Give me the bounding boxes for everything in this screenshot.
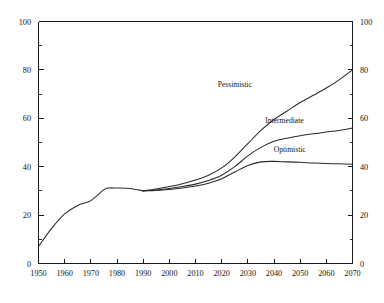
x-tick-label: 2070 <box>344 269 360 278</box>
x-tick-label: 1990 <box>135 269 151 278</box>
y-tick-label-right: 100 <box>360 18 372 27</box>
x-tick-label: 1960 <box>56 269 72 278</box>
x-tick-label: 1970 <box>83 269 99 278</box>
series-label-intermediate: Intermediate <box>265 116 304 125</box>
y-tick-label-left: 80 <box>23 66 31 75</box>
y-tick-label-left: 20 <box>23 211 31 220</box>
y-tick-label-right: 20 <box>360 211 368 220</box>
x-tick-label: 2040 <box>266 269 282 278</box>
x-tick-label: 1950 <box>30 269 46 278</box>
y-tick-label-left: 60 <box>23 114 31 123</box>
y-tick-label-right: 80 <box>360 66 368 75</box>
x-tick-label: 2050 <box>292 269 308 278</box>
y-tick-label-left: 40 <box>23 163 31 172</box>
chart-background <box>0 0 384 303</box>
series-label-pessimistic: Pessimistic <box>218 80 253 89</box>
y-tick-label-right: 40 <box>360 163 368 172</box>
x-tick-label: 1980 <box>109 269 125 278</box>
y-tick-label-right: 60 <box>360 114 368 123</box>
y-tick-label-left: 100 <box>19 18 31 27</box>
y-tick-label-left: 0 <box>27 260 31 269</box>
x-tick-label: 2020 <box>213 269 229 278</box>
series-label-optimistic: Optimistic <box>274 145 307 154</box>
population-projection-line-chart: 1950196019701980199020002010202020302040… <box>0 0 384 303</box>
y-tick-label-right: 0 <box>360 260 364 269</box>
x-tick-label: 2030 <box>240 269 256 278</box>
x-tick-label: 2010 <box>187 269 203 278</box>
chart-container: 1950196019701980199020002010202020302040… <box>0 0 384 303</box>
x-tick-label: 2000 <box>161 269 177 278</box>
x-tick-label: 2060 <box>318 269 334 278</box>
